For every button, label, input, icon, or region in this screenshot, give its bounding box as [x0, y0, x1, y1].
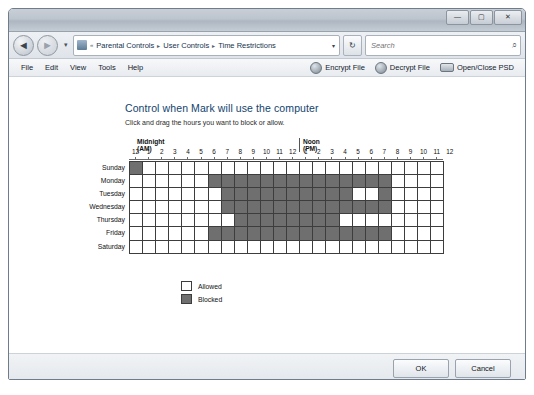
breadcrumb-item-user-controls[interactable]: User Controls [163, 41, 209, 50]
schedule-cell[interactable] [209, 227, 222, 240]
schedule-cell[interactable] [379, 188, 392, 201]
schedule-cell[interactable] [209, 188, 222, 201]
schedule-cell[interactable] [209, 175, 222, 188]
schedule-cell[interactable] [313, 188, 326, 201]
schedule-cell[interactable] [287, 241, 300, 254]
schedule-cell[interactable] [156, 227, 169, 240]
schedule-cell[interactable] [379, 227, 392, 240]
schedule-cell[interactable] [431, 188, 444, 201]
schedule-cell[interactable] [143, 188, 156, 201]
schedule-cell[interactable] [405, 227, 418, 240]
schedule-cell[interactable] [143, 162, 156, 175]
schedule-cell[interactable] [182, 175, 195, 188]
maximize-button[interactable]: ▢ [470, 10, 493, 25]
forward-icon[interactable]: ► [37, 35, 58, 56]
schedule-cell[interactable] [340, 188, 353, 201]
schedule-cell[interactable] [169, 175, 182, 188]
schedule-cell[interactable] [340, 201, 353, 214]
schedule-cell[interactable] [169, 227, 182, 240]
schedule-cell[interactable] [366, 201, 379, 214]
search-input[interactable] [369, 40, 512, 51]
schedule-cell[interactable] [366, 214, 379, 227]
schedule-cell[interactable] [431, 227, 444, 240]
schedule-cell[interactable] [287, 201, 300, 214]
schedule-cell[interactable] [418, 214, 431, 227]
schedule-cell[interactable] [313, 227, 326, 240]
close-button[interactable]: ✕ [494, 10, 522, 25]
schedule-cell[interactable] [287, 227, 300, 240]
menu-item-file[interactable]: File [15, 63, 39, 72]
schedule-cell[interactable] [405, 162, 418, 175]
schedule-cell[interactable] [274, 227, 287, 240]
schedule-cell[interactable] [340, 162, 353, 175]
schedule-cell[interactable] [392, 162, 405, 175]
schedule-cell[interactable] [418, 162, 431, 175]
schedule-cell[interactable] [156, 188, 169, 201]
schedule-cell[interactable] [326, 162, 339, 175]
schedule-cell[interactable] [261, 175, 274, 188]
schedule-cell[interactable] [431, 175, 444, 188]
schedule-cell[interactable] [353, 175, 366, 188]
schedule-cell[interactable] [222, 175, 235, 188]
schedule-cell[interactable] [274, 214, 287, 227]
encrypt-file-button[interactable]: Encrypt File [305, 62, 370, 74]
schedule-cell[interactable] [405, 214, 418, 227]
schedule-cell[interactable] [274, 162, 287, 175]
schedule-cell[interactable] [366, 175, 379, 188]
schedule-cell[interactable] [326, 241, 339, 254]
back-icon[interactable]: ◄ [13, 35, 34, 56]
schedule-cell[interactable] [195, 241, 208, 254]
minimize-button[interactable]: — [446, 10, 469, 25]
schedule-cell[interactable] [156, 201, 169, 214]
schedule-cell[interactable] [261, 227, 274, 240]
schedule-cell[interactable] [143, 241, 156, 254]
schedule-cell[interactable] [182, 201, 195, 214]
schedule-cell[interactable] [261, 241, 274, 254]
schedule-cell[interactable] [143, 214, 156, 227]
schedule-cell[interactable] [143, 201, 156, 214]
schedule-cell[interactable] [248, 214, 261, 227]
schedule-cell[interactable] [300, 162, 313, 175]
menu-item-tools[interactable]: Tools [92, 63, 122, 72]
schedule-cell[interactable] [418, 241, 431, 254]
schedule-cell[interactable] [261, 214, 274, 227]
breadcrumb[interactable]: « Parental Controls ▸ User Controls ▸ Ti… [73, 35, 340, 56]
schedule-cell[interactable] [156, 241, 169, 254]
schedule-cell[interactable] [431, 241, 444, 254]
schedule-cell[interactable] [248, 241, 261, 254]
schedule-cell[interactable] [156, 214, 169, 227]
schedule-cell[interactable] [392, 201, 405, 214]
schedule-cell[interactable] [300, 214, 313, 227]
schedule-cell[interactable] [182, 241, 195, 254]
schedule-cell[interactable] [130, 241, 143, 254]
schedule-cell[interactable] [169, 162, 182, 175]
schedule-cell[interactable] [353, 162, 366, 175]
schedule-cell[interactable] [418, 188, 431, 201]
schedule-cell[interactable] [405, 201, 418, 214]
schedule-cell[interactable] [392, 188, 405, 201]
schedule-cell[interactable] [313, 175, 326, 188]
schedule-cell[interactable] [248, 227, 261, 240]
breadcrumb-item-parental-controls[interactable]: Parental Controls [96, 41, 154, 50]
schedule-cell[interactable] [287, 188, 300, 201]
schedule-cell[interactable] [261, 162, 274, 175]
schedule-cell[interactable] [235, 214, 248, 227]
schedule-cell[interactable] [235, 201, 248, 214]
schedule-cell[interactable] [248, 188, 261, 201]
schedule-cell[interactable] [130, 227, 143, 240]
schedule-cell[interactable] [143, 227, 156, 240]
schedule-cell[interactable] [326, 214, 339, 227]
schedule-cell[interactable] [353, 188, 366, 201]
schedule-cell[interactable] [195, 162, 208, 175]
schedule-cell[interactable] [169, 188, 182, 201]
schedule-cell[interactable] [418, 175, 431, 188]
schedule-cell[interactable] [209, 241, 222, 254]
schedule-cell[interactable] [222, 241, 235, 254]
schedule-cell[interactable] [209, 162, 222, 175]
schedule-cell[interactable] [248, 201, 261, 214]
breadcrumb-item-time-restrictions[interactable]: Time Restrictions [218, 41, 276, 50]
schedule-cell[interactable] [195, 227, 208, 240]
menu-item-view[interactable]: View [64, 63, 92, 72]
schedule-cell[interactable] [287, 214, 300, 227]
schedule-cell[interactable] [195, 175, 208, 188]
